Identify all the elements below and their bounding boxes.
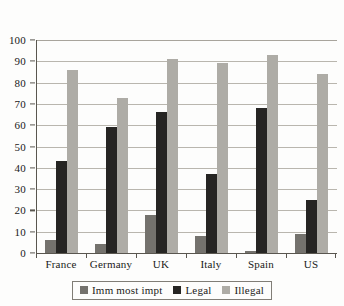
- bar: [217, 63, 228, 253]
- bar: [56, 161, 67, 253]
- legend-label: Legal: [185, 284, 211, 296]
- bar: [267, 55, 278, 253]
- bar: [256, 108, 267, 253]
- bar: [317, 74, 328, 253]
- y-axis-tick-label: 30: [15, 183, 26, 195]
- bar-chart: 0102030405060708090100 FranceGermanyUKIt…: [0, 0, 344, 306]
- y-axis-tick-mark: [30, 210, 35, 211]
- bar: [195, 236, 206, 253]
- y-axis-tick-label: 20: [15, 204, 26, 216]
- legend-swatch-icon: [173, 286, 181, 294]
- bar: [106, 127, 117, 253]
- y-axis: 0102030405060708090100: [0, 40, 32, 253]
- bar-group-uk: [136, 40, 186, 253]
- y-axis-tick-label: 100: [9, 34, 26, 46]
- legend-item-imm-most-impt[interactable]: Imm most impt: [80, 284, 162, 296]
- bar-groups: [36, 40, 336, 253]
- y-axis-tick-label: 60: [15, 119, 26, 131]
- bar-group-spain: [236, 40, 286, 253]
- bar-group-us: [286, 40, 336, 253]
- y-axis-tick-mark: [30, 82, 35, 83]
- bar: [306, 200, 317, 253]
- y-axis-tick-label: 80: [15, 77, 26, 89]
- x-axis-label-uk: UK: [136, 258, 186, 270]
- y-axis-tick-label: 0: [20, 247, 26, 259]
- y-axis-tick-label: 40: [15, 162, 26, 174]
- bar: [206, 174, 217, 253]
- y-axis-tick-mark: [30, 146, 35, 147]
- legend-swatch-icon: [80, 286, 88, 294]
- bar-group-france: [36, 40, 86, 253]
- y-axis-tick-mark: [30, 39, 35, 40]
- y-axis-tick-label: 70: [15, 98, 26, 110]
- bar: [167, 59, 178, 253]
- y-axis-tick-mark: [30, 167, 35, 168]
- y-axis-tick-label: 90: [15, 55, 26, 67]
- bar-group-germany: [86, 40, 136, 253]
- bar: [156, 112, 167, 253]
- x-axis-label-germany: Germany: [86, 258, 136, 270]
- bar: [67, 70, 78, 253]
- y-axis-tick-mark: [30, 189, 35, 190]
- y-axis-tick-mark: [30, 125, 35, 126]
- legend-item-illegal[interactable]: Illegal: [222, 284, 264, 296]
- y-axis-tick-mark: [30, 231, 35, 232]
- legend-label: Illegal: [234, 284, 264, 296]
- x-axis-labels: FranceGermanyUKItalySpainUS: [36, 258, 336, 270]
- legend-swatch-icon: [222, 286, 230, 294]
- bar: [45, 240, 56, 253]
- x-axis-label-us: US: [286, 258, 336, 270]
- bar-group-italy: [186, 40, 236, 253]
- y-axis-tick-mark: [30, 252, 35, 253]
- y-axis-tick-label: 50: [15, 141, 26, 153]
- x-axis-label-italy: Italy: [186, 258, 236, 270]
- y-axis-tick-mark: [30, 61, 35, 62]
- x-axis-label-spain: Spain: [236, 258, 286, 270]
- bar: [145, 215, 156, 253]
- bar: [95, 244, 106, 253]
- chart-legend: Imm most imptLegalIllegal: [72, 281, 272, 300]
- legend-item-legal[interactable]: Legal: [173, 284, 211, 296]
- bar: [295, 234, 306, 253]
- bar: [117, 98, 128, 253]
- x-axis-label-france: France: [36, 258, 86, 270]
- legend-label: Imm most impt: [92, 284, 162, 296]
- y-axis-tick-mark: [30, 103, 35, 104]
- y-axis-tick-label: 10: [15, 226, 26, 238]
